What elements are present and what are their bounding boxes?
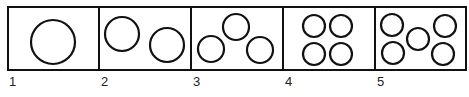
circle-panel-5-4 bbox=[434, 15, 456, 37]
circle-panel-5-1 bbox=[381, 14, 403, 36]
circle-panel-5-3 bbox=[407, 28, 429, 50]
panel-label-5: 5 bbox=[377, 74, 384, 89]
circle-panel-4-3 bbox=[303, 43, 325, 65]
circle-panel-3-3 bbox=[247, 37, 273, 63]
circle-panel-4-1 bbox=[303, 15, 325, 37]
circle-panel-5-2 bbox=[382, 42, 404, 64]
circle-panel-4-4 bbox=[330, 43, 352, 65]
panel-label-2: 2 bbox=[101, 74, 108, 89]
circle-panel-2-1 bbox=[105, 17, 139, 51]
panel-label-4: 4 bbox=[285, 74, 292, 89]
circle-panel-1-1 bbox=[31, 20, 75, 64]
panel-strip bbox=[0, 0, 469, 97]
circles-group bbox=[31, 14, 456, 65]
circle-panel-3-1 bbox=[198, 36, 224, 62]
panel-label-3: 3 bbox=[193, 74, 200, 89]
circle-panel-4-2 bbox=[330, 15, 352, 37]
circle-panel-2-2 bbox=[150, 28, 184, 62]
circle-panel-5-5 bbox=[432, 43, 454, 65]
panel-label-1: 1 bbox=[9, 74, 16, 89]
circle-panel-3-2 bbox=[223, 14, 249, 40]
